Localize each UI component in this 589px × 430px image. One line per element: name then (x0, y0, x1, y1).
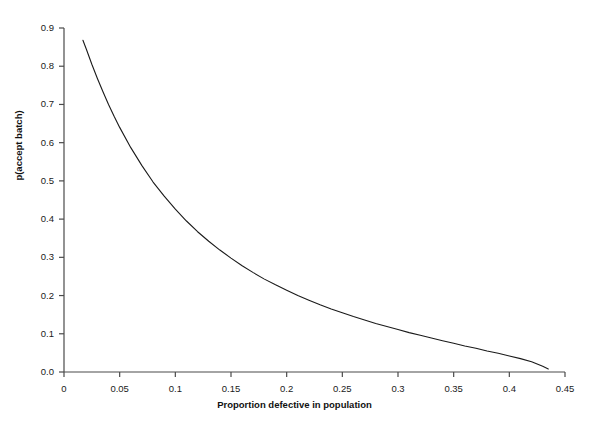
y-axis-tick-label: 0.8 (14, 61, 54, 71)
y-axis-tick-label: 0.1 (14, 329, 54, 339)
x-axis-tick-label: 0.4 (503, 384, 516, 394)
y-axis-tick-label: 0.9 (14, 23, 54, 33)
x-axis-title: Proportion defective in population (0, 399, 589, 410)
x-axis-tick-label: 0.05 (110, 384, 129, 394)
y-axis-ticks (59, 28, 64, 372)
y-axis-title: p(accept batch) (13, 81, 24, 211)
x-axis-tick-label: 0.2 (280, 384, 293, 394)
plot-area (0, 0, 589, 430)
y-axis-tick-label: 0.0 (14, 367, 54, 377)
series-line-0 (83, 40, 548, 369)
y-axis-tick-label: 0.2 (14, 291, 54, 301)
axes (64, 28, 565, 372)
x-axis-tick-label: 0.25 (333, 384, 352, 394)
x-axis-tick-label: 0 (61, 384, 66, 394)
chart-container: 0.00.10.20.30.40.50.60.70.80.9 00.050.10… (0, 0, 589, 430)
x-axis-tick-label: 0.1 (169, 384, 182, 394)
x-axis-tick-label: 0.3 (391, 384, 404, 394)
y-axis-tick-label: 0.4 (14, 214, 54, 224)
x-axis-tick-label: 0.45 (556, 384, 575, 394)
y-axis-tick-label: 0.3 (14, 253, 54, 263)
data-series-group (83, 40, 548, 369)
x-axis-tick-label: 0.35 (444, 384, 463, 394)
x-axis-tick-label: 0.15 (222, 384, 241, 394)
x-axis-ticks (64, 372, 565, 377)
